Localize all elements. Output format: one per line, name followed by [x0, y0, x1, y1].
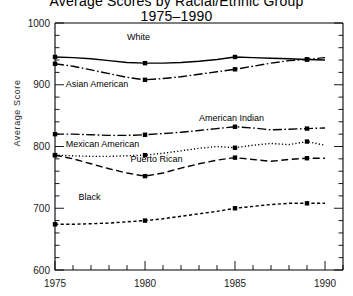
- data-point-marker: [143, 78, 147, 82]
- plot-area: 1000900800700600 1975198019851990 WhiteA…: [0, 0, 353, 296]
- series-line: [55, 155, 325, 176]
- data-point-marker: [53, 62, 57, 66]
- data-point-marker: [53, 55, 57, 59]
- data-point-marker: [143, 218, 147, 222]
- data-point-marker: [143, 133, 147, 137]
- series-label-white: White: [127, 32, 150, 42]
- data-point-marker: [233, 55, 237, 59]
- data-point-marker: [305, 126, 309, 130]
- series-label-asian-american: Asian American: [66, 79, 129, 89]
- data-point-marker: [233, 125, 237, 129]
- x-tick-label: 1980: [134, 278, 157, 289]
- y-tick-label: 1000: [28, 18, 51, 29]
- data-point-marker: [305, 57, 309, 61]
- y-axis-tick-labels: 1000900800700600: [28, 18, 51, 276]
- data-point-marker: [233, 146, 237, 150]
- x-tick-label: 1990: [314, 278, 337, 289]
- data-point-marker: [143, 174, 147, 178]
- series-line: [55, 58, 325, 80]
- y-tick-label: 800: [33, 141, 50, 152]
- x-tick-label: 1975: [44, 278, 67, 289]
- chart-container: Average Scores by Racial/Ethnic Group 19…: [0, 0, 353, 296]
- series-label-mexican-american: Mexican American: [66, 139, 140, 149]
- y-tick-label: 600: [33, 265, 50, 276]
- series-line: [55, 127, 325, 136]
- y-tick-label: 700: [33, 203, 50, 214]
- series-line: [55, 203, 325, 224]
- data-point-marker: [233, 67, 237, 71]
- data-point-marker: [233, 155, 237, 159]
- data-point-marker: [305, 156, 309, 160]
- x-tick-label: 1985: [224, 278, 247, 289]
- x-axis-tick-labels: 1975198019851990: [44, 278, 337, 289]
- data-point-marker: [53, 132, 57, 136]
- data-point-marker: [305, 139, 309, 143]
- series-label-black: Black: [78, 192, 101, 202]
- data-point-marker: [53, 222, 57, 226]
- series-label-american-indian: American Indian: [199, 113, 264, 123]
- data-point-marker: [53, 153, 57, 157]
- data-point-marker: [305, 201, 309, 205]
- y-tick-label: 900: [33, 79, 50, 90]
- data-point-marker: [143, 61, 147, 65]
- series-label-puerto-rican: Puerto Rican: [131, 154, 183, 164]
- data-point-marker: [233, 206, 237, 210]
- series-line: [55, 57, 325, 63]
